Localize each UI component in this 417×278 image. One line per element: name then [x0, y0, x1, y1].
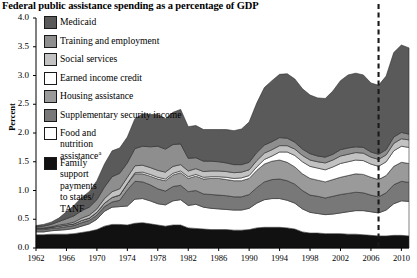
legend-label: Earned income credit	[60, 72, 142, 83]
legend-swatch-icon	[44, 53, 57, 66]
legend-label: Family support payments to states/ TANF	[60, 157, 104, 214]
legend-supplementary-security-income: Supplementary security income	[44, 109, 182, 122]
legend-label: Social services	[60, 53, 117, 64]
legend-training-and-employment: Training and employment	[44, 35, 159, 48]
legend-label: Supplementary security income	[60, 109, 182, 120]
chart-page: Federal public assistance spending as a …	[0, 0, 417, 278]
legend-social-services: Social services	[44, 53, 117, 66]
legend-swatch-icon	[44, 16, 57, 29]
legend-family-support-payments: Family support payments to states/ TANF	[44, 157, 104, 214]
legend-earned-income-credit: Earned income credit	[44, 72, 142, 85]
legend-label: Training and employment	[60, 35, 159, 46]
legend-swatch-icon	[44, 90, 57, 103]
legend-swatch-icon	[44, 35, 57, 48]
legend-swatch-icon	[44, 157, 57, 170]
legend-label: Medicaid	[60, 16, 96, 27]
legend-swatch-icon	[44, 72, 57, 85]
legend-label: Housing assistance	[60, 90, 133, 101]
legend-swatch-icon	[44, 109, 57, 122]
legend-swatch-icon	[44, 127, 57, 140]
legend-housing-assistance: Housing assistance	[44, 90, 133, 103]
legend-medicaid: Medicaid	[44, 16, 96, 29]
